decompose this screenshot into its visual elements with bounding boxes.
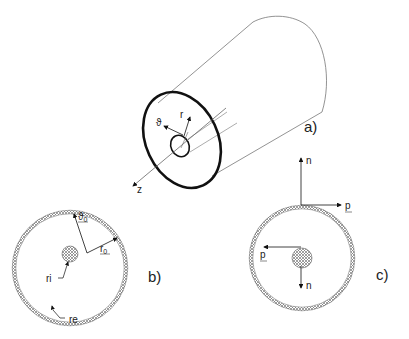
inner-conductor-hatched: [62, 246, 78, 262]
figure-canvas: ϑ r z a) ϑ0 r0 ri re b) n p: [0, 0, 409, 339]
cylinder-back-arc: [253, 16, 327, 112]
ri-leader: [58, 262, 68, 278]
panel-a-cylinder: ϑ r z a): [128, 16, 326, 200]
panel-a-label: a): [304, 118, 317, 135]
inner-conductor-hatched: [292, 248, 312, 268]
outer-n-label: n: [306, 155, 312, 166]
re-leader: [52, 306, 65, 318]
r-label: r: [180, 109, 184, 120]
panel-c-vectors: n p p n c): [249, 155, 388, 311]
outer-wall-hatched: [14, 212, 126, 324]
ri-label: ri: [46, 273, 52, 284]
outer-p-label: p: [345, 200, 351, 211]
inner-n-label: n: [306, 280, 312, 291]
bore-bottom-line: [190, 123, 237, 152]
theta-label: ϑ: [156, 117, 162, 128]
panel-c-label: c): [376, 266, 389, 283]
panel-b-label: b): [148, 268, 161, 285]
z-label: z: [137, 184, 142, 195]
outer-wall-inner-outline: [16, 214, 124, 322]
r-axis-arrow: [184, 117, 190, 136]
theta-axis-arrow: [164, 126, 183, 135]
inner-p-label: p: [260, 249, 266, 260]
re-label: re: [69, 314, 78, 325]
cylinder-front-face: [128, 79, 236, 200]
cylinder-inner-bore: [167, 132, 193, 160]
panel-b-cross-section: ϑ0 r0 ri re b): [12, 210, 161, 326]
